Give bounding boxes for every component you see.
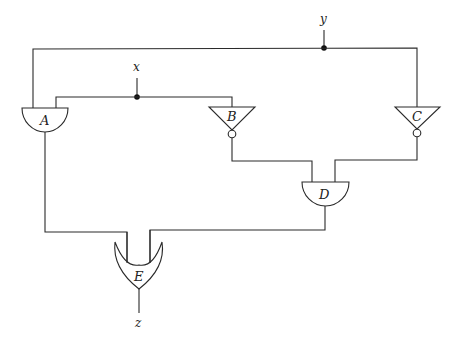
input-x-label: x bbox=[133, 60, 140, 74]
wire-d-to-e bbox=[150, 206, 325, 264]
wire-c-to-d bbox=[335, 137, 417, 182]
input-y-label: y bbox=[319, 12, 327, 26]
gate-e: E bbox=[115, 230, 163, 289]
inverter-bubble-b-icon bbox=[228, 130, 236, 138]
logic-circuit-diagram: y x A B C D bbox=[0, 0, 462, 345]
inverter-bubble-c-icon bbox=[413, 129, 421, 137]
gate-a: A bbox=[22, 108, 68, 132]
gate-c: C bbox=[395, 107, 440, 137]
gate-b: B bbox=[209, 107, 255, 138]
gate-c-label: C bbox=[412, 109, 422, 124]
wire-y-bus bbox=[33, 48, 417, 108]
output-z-label: z bbox=[134, 316, 142, 330]
input-y: y bbox=[319, 12, 327, 51]
gate-d-label: D bbox=[318, 187, 330, 202]
input-x: x bbox=[133, 60, 140, 100]
wire-b-to-d bbox=[232, 138, 312, 182]
gate-a-label: A bbox=[39, 113, 49, 128]
gate-d: D bbox=[302, 182, 349, 206]
output-z: z bbox=[134, 289, 142, 330]
gate-b-label: B bbox=[226, 109, 237, 124]
gate-e-label: E bbox=[133, 269, 144, 284]
wire-x-bus bbox=[56, 97, 232, 108]
